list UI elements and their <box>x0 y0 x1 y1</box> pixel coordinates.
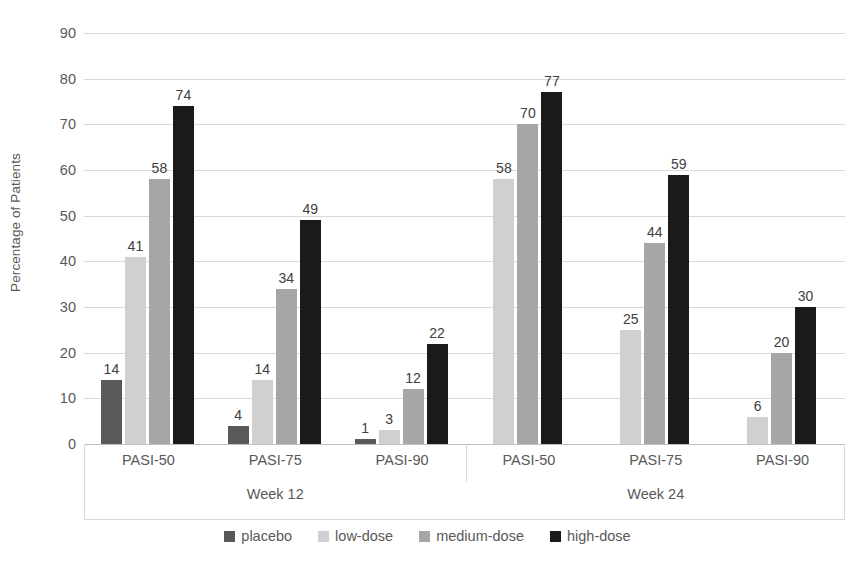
legend-swatch-medium-dose <box>419 531 430 542</box>
bar-high-dose <box>795 307 816 444</box>
bar-high-dose <box>300 220 321 444</box>
bar-value-label: 3 <box>385 411 393 427</box>
legend-swatch-high-dose <box>550 531 561 542</box>
bar-value-label: 4 <box>234 407 242 423</box>
bar-value-label: 34 <box>278 270 294 286</box>
y-axis-ticks: 9080706050403020100 <box>32 33 76 444</box>
y-tick-label-0: 0 <box>36 436 76 452</box>
group-separator <box>466 444 467 482</box>
legend-swatch-placebo <box>224 531 235 542</box>
bar-high-dose <box>427 344 448 444</box>
bar-medium-dose <box>771 353 792 444</box>
y-tick-label-50: 50 <box>36 208 76 224</box>
gridline-10 <box>84 398 845 399</box>
bar-medium-dose <box>644 243 665 444</box>
y-axis-title-label: Percentage of Patients <box>8 153 23 292</box>
legend-item-low-dose[interactable]: low-dose <box>318 528 393 544</box>
gridline-40 <box>84 261 845 262</box>
bar-value-label: 44 <box>647 224 663 240</box>
bar-medium-dose <box>149 179 170 444</box>
bar-value-label: 25 <box>623 311 639 327</box>
bar-high-dose <box>541 92 562 444</box>
bar-placebo <box>101 380 122 444</box>
bar-value-label: 58 <box>496 160 512 176</box>
gridline-60 <box>84 170 845 171</box>
bar-value-label: 59 <box>671 156 687 172</box>
bar-value-label: 41 <box>128 238 144 254</box>
y-tick-label-80: 80 <box>36 71 76 87</box>
bar-medium-dose <box>517 124 538 444</box>
y-tick-label-10: 10 <box>36 390 76 406</box>
legend-item-placebo[interactable]: placebo <box>224 528 292 544</box>
bar-low-dose <box>493 179 514 444</box>
bar-high-dose <box>173 106 194 444</box>
bar-value-label: 49 <box>302 201 318 217</box>
bar-value-label: 6 <box>754 398 762 414</box>
bar-value-label: 77 <box>544 73 560 89</box>
gridline-70 <box>84 124 845 125</box>
gridline-90 <box>84 33 845 34</box>
y-tick-label-40: 40 <box>36 253 76 269</box>
bar-low-dose <box>620 330 641 444</box>
bar-medium-dose <box>403 389 424 444</box>
legend-item-medium-dose[interactable]: medium-dose <box>419 528 524 544</box>
legend-label-low-dose: low-dose <box>335 528 393 544</box>
y-tick-label-20: 20 <box>36 345 76 361</box>
bar-value-label: 30 <box>798 288 814 304</box>
category-label-pasi-50: PASI-50 <box>502 452 555 468</box>
legend-label-medium-dose: medium-dose <box>436 528 524 544</box>
bar-low-dose <box>379 430 400 444</box>
bar-high-dose <box>668 175 689 444</box>
bar-low-dose <box>252 380 273 444</box>
bar-value-label: 14 <box>104 361 120 377</box>
y-tick-label-30: 30 <box>36 299 76 315</box>
bar-low-dose <box>747 417 768 444</box>
category-label-pasi-50: PASI-50 <box>122 452 175 468</box>
category-label-pasi-90: PASI-90 <box>376 452 429 468</box>
y-tick-label-90: 90 <box>36 25 76 41</box>
bar-placebo <box>228 426 249 444</box>
bar-value-label: 12 <box>405 370 421 386</box>
bar-value-label: 20 <box>774 334 790 350</box>
category-label-pasi-75: PASI-75 <box>629 452 682 468</box>
bar-value-label: 58 <box>152 160 168 176</box>
category-label-pasi-90: PASI-90 <box>756 452 809 468</box>
y-axis-title: Percentage of Patients <box>0 0 30 444</box>
y-tick-label-70: 70 <box>36 116 76 132</box>
plot-area: 14415874414344913122258707725445962030 <box>84 33 845 444</box>
bar-chart: Percentage of Patients 90807060504030201… <box>0 0 855 563</box>
bar-low-dose <box>125 257 146 444</box>
bar-value-label: 1 <box>361 420 369 436</box>
gridline-20 <box>84 353 845 354</box>
y-tick-label-60: 60 <box>36 162 76 178</box>
bar-medium-dose <box>276 289 297 444</box>
group-label-week-12: Week 12 <box>247 486 304 502</box>
bar-value-label: 70 <box>520 105 536 121</box>
legend-swatch-low-dose <box>318 531 329 542</box>
category-label-pasi-75: PASI-75 <box>249 452 302 468</box>
gridline-30 <box>84 307 845 308</box>
chart-legend: placebolow-dosemedium-dosehigh-dose <box>0 528 855 544</box>
category-axis: Week 12PASI-50PASI-75PASI-90Week 24PASI-… <box>84 444 845 520</box>
gridline-80 <box>84 79 845 80</box>
bar-value-label: 22 <box>429 325 445 341</box>
bar-value-label: 14 <box>254 361 270 377</box>
gridline-50 <box>84 216 845 217</box>
bar-value-label: 74 <box>176 87 192 103</box>
legend-item-high-dose[interactable]: high-dose <box>550 528 631 544</box>
legend-label-placebo: placebo <box>241 528 292 544</box>
group-label-week-24: Week 24 <box>627 486 684 502</box>
legend-label-high-dose: high-dose <box>567 528 631 544</box>
